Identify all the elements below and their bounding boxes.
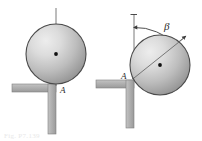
sphere-center-dot-left — [54, 52, 58, 56]
contact-label-a-right: A — [120, 71, 127, 81]
support-right — [96, 80, 134, 128]
sphere-center-dot-right — [158, 63, 162, 67]
mechanics-diagram: A A β — [0, 0, 202, 141]
angle-label-beta: β — [163, 20, 170, 32]
figure-caption-fragment: Fig. P7.139 — [4, 132, 40, 140]
support-vertical-arm-right — [126, 80, 134, 128]
contact-label-a-left: A — [59, 85, 66, 95]
support-left — [12, 84, 56, 134]
support-vertical-arm-left — [48, 84, 56, 134]
panel-left-upright: A — [12, 8, 86, 134]
panel-right-rotated: A β — [96, 14, 190, 128]
figure-container: A A β — [0, 0, 202, 141]
